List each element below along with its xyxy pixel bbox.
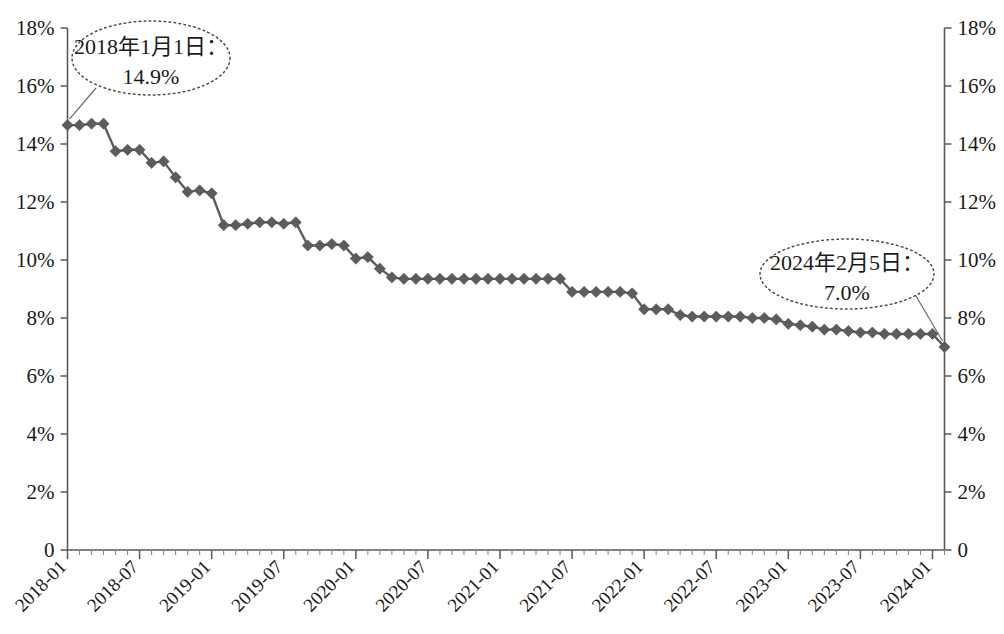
x-axis-labels: 2018-012018-072019-012019-072020-012020-… (11, 556, 936, 616)
data-point-marker (675, 310, 686, 321)
y-axis-tick-label-right: 12% (958, 190, 997, 214)
axes-group (68, 28, 945, 550)
y-axis-tick-label-right: 16% (958, 74, 997, 98)
data-point-marker (891, 328, 902, 339)
y-axis-tick-label-left: 10% (16, 248, 55, 272)
x-axis-tick-label: 2019-07 (227, 556, 287, 616)
data-point-marker (651, 304, 662, 315)
x-axis-tick-label: 2021-07 (515, 556, 575, 616)
data-point-marker (446, 273, 457, 284)
data-point-marker (62, 120, 73, 131)
x-axis-tick-label: 2020-07 (371, 556, 431, 616)
data-point-marker (795, 320, 806, 331)
data-point-marker (326, 238, 337, 249)
data-point-marker (506, 273, 517, 284)
line-chart: 02%4%6%8%10%12%14%16%18% 02%4%6%8%10%12%… (0, 0, 1004, 634)
data-point-marker (867, 327, 878, 338)
data-point-marker (879, 328, 890, 339)
data-point-marker (86, 118, 97, 129)
data-series-markers (62, 118, 950, 353)
data-point-marker (783, 318, 794, 329)
y-axis-tick-label-right: 18% (958, 16, 997, 40)
y-axis-tick-label-right: 0 (958, 538, 969, 562)
data-point-marker (434, 273, 445, 284)
data-point-marker (194, 185, 205, 196)
data-point-marker (218, 220, 229, 231)
chart-container: 02%4%6%8%10%12%14%16%18% 02%4%6%8%10%12%… (0, 0, 1004, 634)
end-annotation-line1: 2024年2月5日： (770, 250, 924, 275)
x-axis-tick-label: 2023-07 (804, 556, 864, 616)
data-point-marker (831, 324, 842, 335)
y-axis-tick-label-right: 14% (958, 132, 997, 156)
data-point-marker (915, 328, 926, 339)
y-axis-tick-label-right: 2% (958, 480, 986, 504)
x-axis-tick-label: 2021-01 (443, 556, 503, 616)
data-point-marker (723, 311, 734, 322)
data-point-marker (518, 273, 529, 284)
data-point-marker (663, 304, 674, 315)
data-point-marker (98, 118, 109, 129)
data-point-marker (578, 286, 589, 297)
data-point-marker (482, 273, 493, 284)
y-axis-labels-left: 02%4%6%8%10%12%14%16%18% (16, 16, 55, 562)
data-point-marker (230, 220, 241, 231)
x-axis-tick-label: 2022-07 (659, 556, 719, 616)
y-axis-tick-label-right: 6% (958, 364, 986, 388)
start-annotation-leader-line (70, 88, 97, 119)
data-point-marker (843, 325, 854, 336)
data-point-marker (290, 217, 301, 228)
data-point-marker (759, 312, 770, 323)
data-point-marker (603, 286, 614, 297)
data-point-marker (735, 311, 746, 322)
x-axis-tick-label: 2022-01 (587, 556, 647, 616)
y-axis-tick-label-left: 14% (16, 132, 55, 156)
data-point-marker (771, 314, 782, 325)
data-point-marker (687, 311, 698, 322)
data-point-marker (74, 120, 85, 131)
y-axis-tick-label-left: 4% (27, 422, 55, 446)
start-annotation-line1: 2018年1月1日： (74, 34, 228, 59)
x-axis-tick-label: 2018-01 (11, 556, 71, 616)
data-point-marker (398, 273, 409, 284)
data-point-marker (591, 286, 602, 297)
data-point-marker (458, 273, 469, 284)
data-point-marker (254, 217, 265, 228)
tick-marks-group (61, 28, 952, 559)
data-point-marker (542, 273, 553, 284)
data-point-marker (530, 273, 541, 284)
end-annotation-line2: 7.0% (824, 280, 870, 305)
data-series-line (68, 124, 945, 347)
data-point-marker (470, 273, 481, 284)
y-axis-tick-label-right: 4% (958, 422, 986, 446)
data-point-marker (819, 324, 830, 335)
data-point-marker (747, 312, 758, 323)
y-axis-tick-label-right: 10% (958, 248, 997, 272)
data-point-marker (903, 328, 914, 339)
annotation-callouts: 2018年1月1日：14.9%2024年2月5日：7.0% (70, 21, 943, 341)
y-axis-tick-label-left: 18% (16, 16, 55, 40)
data-point-marker (615, 286, 626, 297)
series-polyline (68, 124, 945, 347)
data-point-marker (302, 240, 313, 251)
data-point-marker (278, 218, 289, 229)
x-axis-tick-label: 2020-01 (299, 556, 359, 616)
data-point-marker (807, 321, 818, 332)
start-annotation-line2: 14.9% (123, 64, 180, 89)
x-axis-tick-label: 2024-01 (876, 556, 936, 616)
data-point-marker (110, 146, 121, 157)
data-point-marker (711, 311, 722, 322)
y-axis-tick-label-left: 6% (27, 364, 55, 388)
data-point-marker (494, 273, 505, 284)
data-point-marker (855, 327, 866, 338)
data-point-marker (266, 217, 277, 228)
data-point-marker (410, 273, 421, 284)
y-axis-tick-label-left: 16% (16, 74, 55, 98)
data-point-marker (699, 311, 710, 322)
x-axis-tick-label: 2023-01 (732, 556, 792, 616)
x-axis-tick-label: 2018-07 (83, 556, 143, 616)
data-point-marker (206, 188, 217, 199)
y-axis-labels-right: 02%4%6%8%10%12%14%16%18% (958, 16, 997, 562)
y-axis-tick-label-right: 8% (958, 306, 986, 330)
left-and-bottom-axis (68, 28, 945, 550)
data-point-marker (422, 273, 433, 284)
